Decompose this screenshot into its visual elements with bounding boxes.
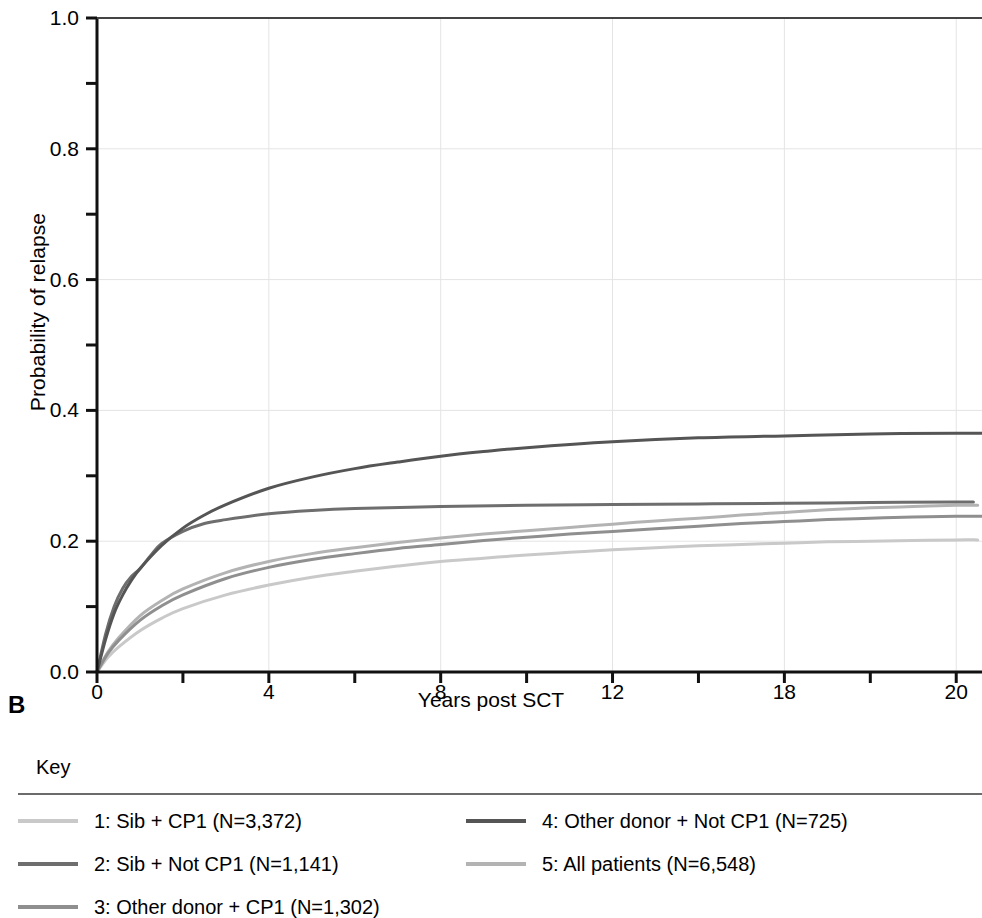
axis-ticks xyxy=(86,18,956,683)
legend-swatch-3 xyxy=(18,905,78,909)
legend-item-5: 5: All patients (N=6,548) xyxy=(466,846,966,882)
legend: Key 1: Sib + CP1 (N=3,372) 2: Sib + Not … xyxy=(0,745,982,918)
x-axis-title: Years post SCT xyxy=(96,688,886,712)
y-tick-label: 0.8 xyxy=(0,138,79,159)
x-tick-label: 20 xyxy=(926,681,982,702)
y-tick-label: 0.2 xyxy=(0,530,79,551)
legend-item-1: 1: Sib + CP1 (N=3,372) xyxy=(18,803,488,839)
panel-label: B xyxy=(8,693,25,717)
legend-swatch-5 xyxy=(466,862,526,866)
relapse-probability-chart: 0.00.20.40.60.81.0 048121820 Probability… xyxy=(0,0,982,690)
y-axis-title: Probability of relapse xyxy=(26,162,50,462)
figure-panel-b: 0.00.20.40.60.81.0 048121820 Probability… xyxy=(0,0,982,918)
legend-label-4: 4: Other donor + Not CP1 (N=725) xyxy=(542,811,848,831)
plot-svg xyxy=(0,0,982,690)
legend-label-3: 3: Other donor + CP1 (N=1,302) xyxy=(94,897,380,917)
legend-divider xyxy=(18,793,982,795)
gridlines xyxy=(97,18,982,672)
legend-label-2: 2: Sib + Not CP1 (N=1,141) xyxy=(94,854,339,874)
legend-item-2: 2: Sib + Not CP1 (N=1,141) xyxy=(18,846,488,882)
legend-item-3: 3: Other donor + CP1 (N=1,302) xyxy=(18,889,488,918)
legend-swatch-2 xyxy=(18,862,78,866)
curve-group xyxy=(97,433,982,672)
legend-label-5: 5: All patients (N=6,548) xyxy=(542,854,756,874)
legend-swatch-4 xyxy=(466,819,526,823)
legend-swatch-1 xyxy=(18,819,78,823)
legend-label-1: 1: Sib + CP1 (N=3,372) xyxy=(94,811,302,831)
legend-title: Key xyxy=(36,757,70,777)
y-tick-label: 1.0 xyxy=(0,7,79,28)
legend-item-4: 4: Other donor + Not CP1 (N=725) xyxy=(466,803,966,839)
axis-lines xyxy=(97,18,982,672)
y-tick-label: 0.0 xyxy=(0,661,79,682)
